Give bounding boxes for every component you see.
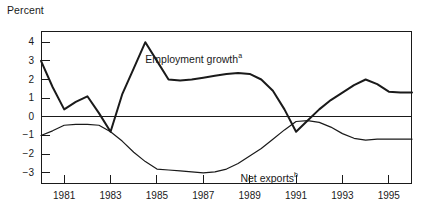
x-tick-label: 1985 [137, 190, 177, 201]
y-tick-label: 3 [14, 55, 34, 66]
chart-plot-area [0, 0, 427, 216]
annotation-footnote-marker: a [238, 52, 242, 59]
y-tick-label: −2 [14, 148, 34, 159]
annotation-text: Net exports [240, 172, 294, 184]
x-tick-label: 1983 [91, 190, 131, 201]
x-tick-label: 1981 [44, 190, 84, 201]
annotation-footnote-marker: b [294, 171, 298, 178]
annotation-text: Employment growth [145, 52, 238, 64]
y-tick-label: −1 [14, 129, 34, 140]
y-tick-label: 0 [14, 111, 34, 122]
y-tick-label: 2 [14, 74, 34, 85]
employment-growth-label: Employment growtha [145, 52, 242, 65]
x-tick-label: 1993 [322, 190, 362, 201]
chart-container: Percent 43210−1−2−3 19811983198519871989… [0, 0, 427, 216]
x-tick-label: 1995 [369, 190, 409, 201]
y-tick-label: 4 [14, 36, 34, 47]
net-exports-label: Net exportsb [240, 171, 298, 184]
x-tick-label: 1987 [183, 190, 223, 201]
series-line-net-exports [41, 121, 412, 173]
x-tick-label: 1991 [276, 190, 316, 201]
y-tick-label: −3 [14, 167, 34, 178]
x-tick-label: 1989 [230, 190, 270, 201]
y-tick-label: 1 [14, 92, 34, 103]
